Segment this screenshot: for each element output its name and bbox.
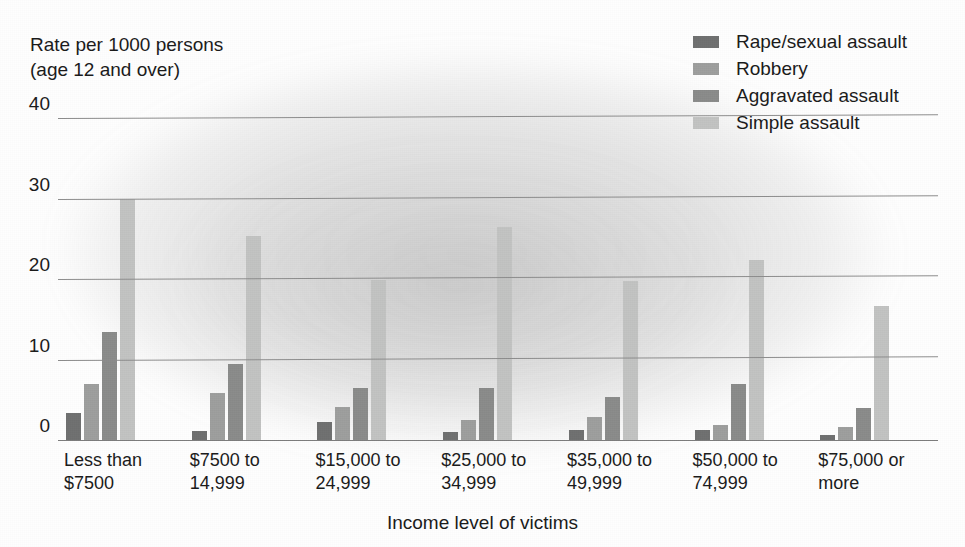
y-axis-tick-30: 30 (10, 174, 50, 196)
bar[interactable] (497, 227, 512, 440)
bar[interactable] (479, 388, 494, 440)
bar[interactable] (569, 430, 584, 440)
bar[interactable] (335, 407, 350, 440)
bar[interactable] (874, 306, 889, 440)
x-axis-tick-label: $50,000 to 74,999 (687, 449, 813, 495)
legend-swatch-icon (693, 63, 719, 75)
bar-group (435, 118, 561, 440)
bar[interactable] (443, 432, 458, 440)
bar[interactable] (749, 260, 764, 440)
x-axis-title: Income level of victims (0, 512, 965, 534)
bar[interactable] (317, 422, 332, 440)
legend-item[interactable]: Robbery (693, 55, 907, 82)
bar[interactable] (605, 397, 620, 440)
x-axis-tick-label: $35,000 to 49,999 (561, 449, 687, 495)
bar[interactable] (623, 281, 638, 440)
legend-label: Rape/sexual assault (736, 31, 907, 53)
bar[interactable] (228, 364, 243, 440)
bar[interactable] (695, 430, 710, 440)
x-axis-tick-label: $7500 to 14,999 (184, 449, 310, 495)
bar[interactable] (731, 384, 746, 440)
legend-swatch-icon (693, 36, 719, 48)
x-axis-tick-label: $75,000 or more (812, 449, 938, 495)
bar[interactable] (353, 388, 368, 440)
bar[interactable] (210, 393, 225, 440)
x-axis-tick-labels: Less than $7500$7500 to 14,999$15,000 to… (58, 449, 938, 495)
bar-group (184, 118, 310, 440)
chart-figure: Rate per 1000 persons (age 12 and over) … (0, 0, 965, 547)
bar-groups (58, 118, 938, 440)
legend-label: Aggravated assault (736, 85, 899, 107)
plot-area: 010203040 (58, 118, 938, 440)
legend: Rape/sexual assaultRobberyAggravated ass… (693, 28, 907, 136)
legend-swatch-icon (693, 90, 719, 102)
bar[interactable] (192, 431, 207, 440)
bar[interactable] (838, 427, 853, 440)
legend-item[interactable]: Simple assault (693, 109, 907, 136)
y-axis-tick-10: 10 (10, 335, 50, 357)
bar[interactable] (820, 435, 835, 440)
bar[interactable] (84, 384, 99, 440)
bar-group (58, 118, 184, 440)
bar[interactable] (246, 236, 261, 440)
bar-group (561, 118, 687, 440)
y-axis-tick-20: 20 (10, 254, 50, 276)
x-axis-tick-label: Less than $7500 (58, 449, 184, 495)
bar[interactable] (587, 417, 602, 440)
bar[interactable] (66, 413, 81, 440)
bar[interactable] (371, 280, 386, 440)
y-axis-tick-40: 40 (10, 93, 50, 115)
legend-item[interactable]: Aggravated assault (693, 82, 907, 109)
bar[interactable] (856, 408, 871, 440)
bar-group (309, 118, 435, 440)
x-axis-tick-label: $15,000 to 24,999 (309, 449, 435, 495)
legend-item[interactable]: Rape/sexual assault (693, 28, 907, 55)
legend-label: Robbery (736, 58, 808, 80)
y-axis-tick-0: 0 (10, 415, 50, 437)
bar[interactable] (120, 199, 135, 441)
x-axis-tick-label: $25,000 to 34,999 (435, 449, 561, 495)
bar[interactable] (461, 420, 476, 440)
y-axis-title: Rate per 1000 persons (age 12 and over) (30, 32, 223, 82)
gridline-0 (58, 440, 938, 441)
legend-swatch-icon (693, 117, 719, 129)
bar-group (687, 118, 813, 440)
bar[interactable] (102, 332, 117, 440)
bar-group (812, 118, 938, 440)
legend-label: Simple assault (736, 112, 860, 134)
bar[interactable] (713, 425, 728, 440)
